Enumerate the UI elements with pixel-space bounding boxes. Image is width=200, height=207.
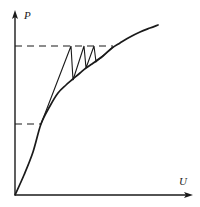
- power-axis-label: P: [23, 9, 31, 21]
- voltage-axis-label: U: [179, 175, 188, 187]
- characteristic-curve: [15, 25, 158, 195]
- staircase-path: [41, 46, 113, 124]
- pu-curve-figure: P U: [0, 0, 200, 207]
- voltage-axis: U: [15, 175, 193, 198]
- figure-container: P U: [0, 0, 200, 207]
